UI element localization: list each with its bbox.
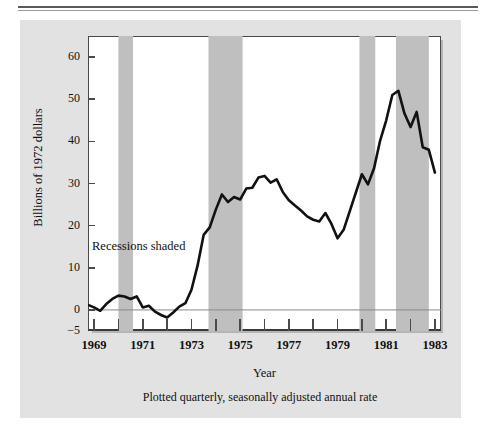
x-axis-tick [337,319,339,331]
y-axis-tick [88,183,95,185]
x-axis-tick [191,319,193,331]
data-line-series [88,91,435,318]
recession-bands-group [118,36,428,331]
y-axis-tick-label: 10 [50,260,80,275]
y-axis-tick [88,309,95,311]
x-axis-tick-label: 1975 [220,338,260,353]
recessions-shaded-annotation: Recessions shaded [92,239,185,254]
x-axis-tick [312,319,314,331]
x-axis-tick-label: 1969 [74,338,114,353]
figure-footnote: Plotted quarterly, seasonally adjusted a… [60,390,460,405]
y-axis-tick-label: 50 [50,91,80,106]
x-axis-tick [434,319,436,331]
y-axis-tick [88,56,95,58]
x-axis-tick [264,319,266,331]
x-axis-tick-label: 1977 [269,338,309,353]
y-axis-title: Billions of 1972 dollars [31,68,46,268]
recession-band [209,36,243,331]
x-axis-tick [385,319,387,331]
page-rule-thin [18,10,478,11]
y-axis-tick-label: −5 [50,323,80,338]
x-axis-tick-label: 1981 [366,338,406,353]
x-axis-tick [239,319,241,331]
y-axis-tick [88,267,95,269]
x-axis-tick-label: 1971 [123,338,163,353]
data-line-group [88,91,435,318]
x-axis-tick [166,319,168,331]
x-axis-tick [361,319,363,331]
recession-band [396,36,429,331]
plot-frame-shadow-bottom [92,331,443,333]
y-axis-tick-label: 40 [50,133,80,148]
y-axis-tick [88,225,95,227]
y-axis-tick-label: 0 [50,302,80,317]
x-axis-title: Year [88,366,441,381]
figure-root: −50102030405060 196919711973197519771979… [0,0,489,442]
y-axis-tick-label: 60 [50,49,80,64]
x-axis-tick [142,319,144,331]
x-axis-tick [410,319,412,331]
x-axis-tick-label: 1973 [171,338,211,353]
plot-frame-shadow-right [441,40,443,333]
chart-plot-area [88,36,441,331]
x-axis-tick [215,319,217,331]
x-axis-tick [93,319,95,331]
page-rule-thick [18,6,478,8]
x-axis-tick-label: 1983 [415,338,455,353]
x-axis-tick-label: 1979 [318,338,358,353]
x-axis-tick [118,319,120,331]
y-axis-tick-label: 30 [50,176,80,191]
y-axis-tick-label: 20 [50,218,80,233]
y-axis-tick [88,141,95,143]
x-axis-tick [288,319,290,331]
y-axis-tick [88,98,95,100]
recession-band [118,36,133,331]
